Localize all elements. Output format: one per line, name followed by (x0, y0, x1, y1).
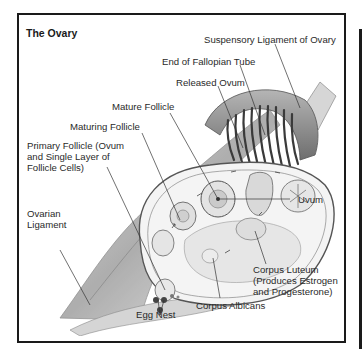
label-maturing-follicle: Maturing Follicle (70, 121, 140, 132)
label-mature-follicle: Mature Follicle (112, 101, 174, 112)
label-corpus-albicans: Corpus Albicans (196, 300, 265, 311)
label-ovarian-ligament: Ovarian Ligament (27, 208, 66, 230)
label-released-ovum: Released Ovum (176, 77, 245, 88)
label-corpus-luteum: Corpus Luteum (Produces Estrogen and Pro… (253, 264, 338, 297)
label-primary-follicle: Primary Follicle (Ovum and Single Layer … (27, 140, 124, 173)
diagram-title: The Ovary (26, 27, 77, 39)
label-egg-nest: Egg Nest (136, 309, 175, 320)
label-uvum: Uvum (298, 194, 323, 205)
label-end-fallopian-tube: End of Fallopian Tube (162, 56, 255, 67)
label-suspensory-ligament: Suspensory Ligament of Ovary (204, 34, 336, 45)
